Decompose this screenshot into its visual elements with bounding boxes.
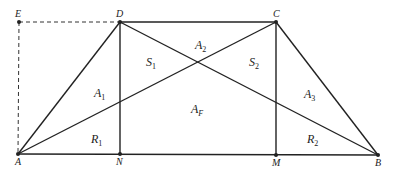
diagonal-DB: [120, 22, 378, 155]
region-label-S1: S1: [146, 55, 156, 71]
segment-CB: [276, 22, 378, 155]
point-label-N: N: [115, 156, 124, 167]
point-label-B: B: [375, 157, 381, 168]
region-label-A2: A2: [194, 38, 206, 54]
trapezoid-diagram: E D C A N M B A1 A2 A3 S1 S2 AF R1 R2: [0, 0, 394, 176]
point-label-D: D: [115, 8, 124, 19]
segment-AD: [18, 22, 120, 154]
point-label-A: A: [14, 156, 22, 167]
region-label-A3: A3: [303, 87, 315, 103]
point-label-E: E: [14, 8, 21, 19]
region-label-AF: AF: [190, 102, 203, 118]
region-label-R2: R2: [306, 132, 318, 148]
point-C-dot: [274, 20, 278, 24]
point-label-C: C: [273, 8, 280, 19]
segment-AB: [18, 154, 378, 155]
point-D-dot: [118, 20, 122, 24]
diagram-canvas: E D C A N M B A1 A2 A3 S1 S2 AF R1 R2: [0, 0, 394, 176]
dashed-segment-EA: [18, 22, 19, 154]
diagonal-AC: [18, 22, 276, 154]
region-label-A1: A1: [93, 86, 105, 102]
region-label-S2: S2: [249, 55, 259, 71]
point-label-M: M: [271, 157, 281, 168]
point-E-dot: [17, 20, 21, 24]
region-label-R1: R1: [90, 132, 102, 148]
